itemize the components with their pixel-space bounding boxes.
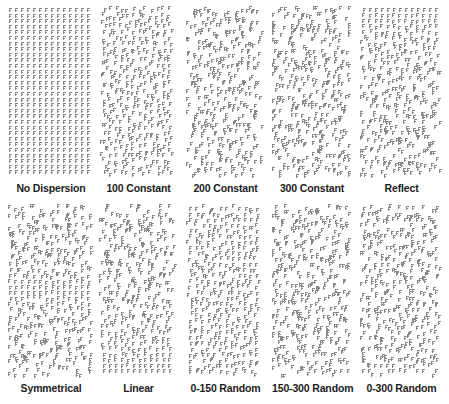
pattern-canvas (99, 204, 178, 378)
dispersion-pattern-swatch (272, 204, 352, 378)
dispersion-panel: 0-300 Random (360, 204, 443, 378)
panel-label: Linear (99, 382, 178, 394)
dispersion-pattern-swatch (99, 6, 178, 178)
dispersion-pattern-swatch (272, 6, 352, 178)
dispersion-pattern-swatch (360, 204, 443, 378)
panel-label: No Dispersion (8, 182, 94, 194)
panel-label: 200 Constant (186, 182, 265, 194)
pattern-canvas (360, 204, 443, 378)
dispersion-panel: Symmetrical (8, 204, 94, 378)
pattern-canvas (186, 204, 265, 378)
pattern-canvas (272, 6, 352, 178)
dispersion-panel: 100 Constant (99, 6, 178, 178)
dispersion-pattern-swatch (99, 204, 178, 378)
panel-label: 150-300 Random (272, 382, 352, 394)
dispersion-pattern-swatch (186, 204, 265, 378)
dispersion-figure: No Dispersion100 Constant200 Constant300… (0, 0, 449, 404)
pattern-canvas (99, 6, 178, 178)
dispersion-pattern-swatch (186, 6, 265, 178)
dispersion-panel: 200 Constant (186, 6, 265, 178)
pattern-canvas (8, 204, 94, 378)
dispersion-pattern-swatch (360, 6, 443, 178)
panel-label: 100 Constant (99, 182, 178, 194)
pattern-canvas (272, 204, 352, 378)
panel-label: 0-150 Random (186, 382, 265, 394)
dispersion-panel: 300 Constant (272, 6, 352, 178)
panel-label: Symmetrical (8, 382, 94, 394)
dispersion-pattern-swatch (8, 6, 94, 178)
panel-label: 300 Constant (272, 182, 352, 194)
dispersion-panel: 0-150 Random (186, 204, 265, 378)
dispersion-panel: Linear (99, 204, 178, 378)
dispersion-panel: 150-300 Random (272, 204, 352, 378)
pattern-canvas (186, 6, 265, 178)
pattern-canvas (360, 6, 443, 178)
dispersion-panel: No Dispersion (8, 6, 94, 178)
panel-label: 0-300 Random (360, 382, 443, 394)
dispersion-panel: Reflect (360, 6, 443, 178)
pattern-canvas (8, 6, 94, 178)
dispersion-pattern-swatch (8, 204, 94, 378)
panel-label: Reflect (360, 182, 443, 194)
